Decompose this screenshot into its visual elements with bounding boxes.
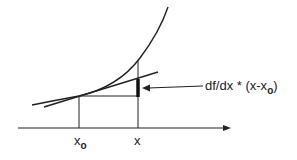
annotation-close-paren: )	[273, 78, 277, 93]
x0-label-main: x	[74, 133, 81, 148]
x0-label-subscript: o	[81, 140, 87, 151]
annotation-subscript: o	[267, 85, 273, 96]
x-axis-arrowhead	[223, 125, 231, 131]
annotation-label: df/dx * (x-xo)	[205, 79, 278, 92]
annotation-text: df/dx * (x-x	[205, 78, 267, 93]
annotation-arrow-line	[148, 86, 203, 88]
annotation-arrowhead	[142, 85, 150, 92]
x-label: x	[134, 133, 141, 148]
tangent-line	[44, 72, 158, 107]
x0-tick-label: xo	[74, 134, 87, 147]
x-tick-label: x	[134, 134, 141, 147]
tangent-approximation-diagram: df/dx * (x-xo) xo x	[0, 0, 297, 160]
